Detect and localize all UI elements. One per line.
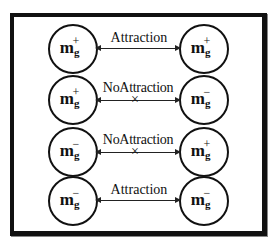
mass-label: mg+ [50,90,96,109]
mass-label: mg− [181,90,227,109]
mass-sign: + [203,34,210,48]
mass-label: mg− [50,142,96,161]
relation-label: Attraction [104,30,174,46]
cross-icon: × [131,93,139,107]
mass-label: mg− [181,191,227,210]
relation-label: Attraction [104,182,174,198]
mass-label: mg+ [181,142,227,161]
mass-label: mg+ [181,39,227,58]
mass-circle-right: mg− [179,176,229,226]
mass-sign: − [203,186,210,200]
mass-circle-left: mg− [48,127,98,177]
arrowhead-right-icon [175,97,181,103]
mass-circle-left: mg+ [48,75,98,125]
cross-icon: × [131,145,139,159]
mass-label: mg+ [50,39,96,58]
arrowhead-left-icon [95,97,101,103]
double-arrow [96,48,180,49]
mass-sign: + [72,85,79,99]
arrowhead-right-icon [175,197,181,203]
mass-circle-right: mg− [179,75,229,125]
arrowhead-right-icon [175,149,181,155]
mass-circle-right: mg+ [179,24,229,74]
arrowhead-left-icon [95,197,101,203]
arrowhead-left-icon [95,45,101,51]
arrowhead-right-icon [175,45,181,51]
mass-sign: − [72,137,79,151]
mass-sign: + [203,137,210,151]
arrowhead-left-icon [95,149,101,155]
mass-sign: − [203,85,210,99]
mass-circle-right: mg+ [179,127,229,177]
double-arrow [96,200,180,201]
mass-circle-left: mg+ [48,24,98,74]
mass-label: mg− [50,191,96,210]
mass-sign: − [72,186,79,200]
mass-sign: + [72,34,79,48]
mass-circle-left: mg− [48,176,98,226]
